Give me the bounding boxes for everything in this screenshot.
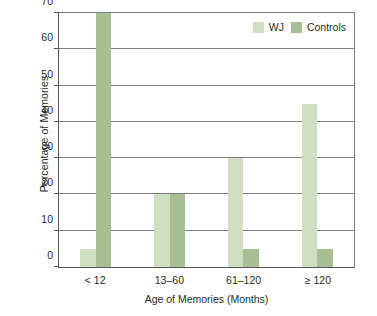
- bar-wj: [80, 249, 95, 267]
- x-axis-title: Age of Memories (Months): [58, 293, 355, 305]
- bar-group: [280, 13, 354, 267]
- legend-swatch-controls: [291, 22, 302, 33]
- y-tick-label: 70: [41, 0, 53, 7]
- y-tick-label: 60: [41, 31, 53, 43]
- legend-label-wj: WJ: [269, 21, 284, 33]
- plot-area: 010203040506070 WJ Controls: [58, 12, 355, 268]
- bar-controls: [96, 13, 111, 267]
- x-tick-label: 13–60: [155, 274, 184, 286]
- y-tick-label: 40: [41, 104, 53, 116]
- bar-chart-figure: Percentage of Memories 010203040506070 W…: [0, 0, 377, 316]
- legend-label-controls: Controls: [307, 21, 346, 33]
- bar-group: [207, 13, 281, 267]
- x-tick-label: ≥ 120: [305, 274, 331, 286]
- legend: WJ Controls: [253, 21, 346, 33]
- bar-controls: [317, 249, 332, 267]
- y-tick-label: 50: [41, 68, 53, 80]
- bar-wj: [228, 158, 243, 267]
- y-tick-label: 10: [41, 213, 53, 225]
- x-tick-label: < 12: [85, 274, 106, 286]
- bar-controls: [243, 249, 258, 267]
- bar-wj: [154, 194, 169, 267]
- bar-group: [59, 13, 133, 267]
- x-tick-label: 61–120: [226, 274, 261, 286]
- bar-group: [133, 13, 207, 267]
- legend-item-controls: Controls: [291, 21, 346, 33]
- y-tick-label: 20: [41, 176, 53, 188]
- bar-series-container: [59, 13, 354, 267]
- legend-swatch-wj: [253, 22, 264, 33]
- y-tick-label: 30: [41, 140, 53, 152]
- y-axis-title: Percentage of Memories: [38, 24, 50, 244]
- bar-wj: [302, 104, 317, 267]
- x-axis-ticks: < 1213–6061–120≥ 120: [58, 274, 355, 290]
- bar-controls: [170, 194, 185, 267]
- legend-item-wj: WJ: [253, 21, 284, 33]
- y-tick-label: 0: [47, 249, 53, 261]
